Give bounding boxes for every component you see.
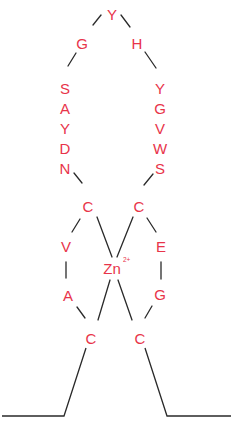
residue-right-1: Y [155, 80, 165, 97]
residue-cys-1: C [83, 198, 94, 215]
zn-coord-c4 [118, 280, 132, 320]
residue-cys-3: C [86, 330, 97, 347]
bond-c-e [147, 218, 156, 232]
bond-h-y [145, 52, 156, 68]
bond-g-c [145, 306, 152, 318]
bond-s-c [144, 174, 153, 185]
bond-a-c [77, 307, 85, 318]
residue-left-2: A [60, 100, 70, 117]
bond-g-s [68, 53, 76, 66]
residue-e: E [156, 238, 166, 255]
residue-y-top: Y [107, 6, 117, 23]
zn-coord-c2 [117, 217, 133, 257]
residue-right-5: S [155, 160, 165, 177]
zinc-finger-diagram: Y G H S A Y D N Y G V W S C C V E A G C … [0, 0, 233, 429]
residue-left-5: N [60, 160, 71, 177]
residue-g-top: G [76, 35, 88, 52]
residue-cys-4: C [135, 330, 146, 347]
diagram-canvas: Y G H S A Y D N Y G V W S C C V E A G C … [0, 0, 233, 429]
zn-coord-c3 [98, 280, 110, 320]
zinc-ion-charge: 2+ [123, 256, 131, 263]
residue-right-4: W [153, 140, 168, 157]
bond-y-h [121, 15, 130, 27]
zinc-ion: Zn 2+ [103, 256, 130, 277]
backbone-right [145, 348, 231, 416]
zn-coord-c1 [97, 217, 112, 257]
residue-left-4: D [60, 140, 71, 157]
residue-left-1: S [60, 80, 70, 97]
zinc-ion-label: Zn [103, 260, 121, 277]
residue-left-3: Y [60, 120, 70, 137]
residue-a: A [63, 287, 73, 304]
backbone-left [2, 348, 86, 416]
residue-g-low: G [154, 286, 166, 303]
residue-v: V [61, 238, 71, 255]
residue-right-2: G [154, 100, 166, 117]
residue-right-3: V [155, 120, 165, 137]
bond-c-v [72, 219, 80, 232]
residue-cys-2: C [134, 198, 145, 215]
bond-n-c [74, 173, 82, 183]
residue-h-top: H [132, 35, 143, 52]
bond-g-y [93, 15, 101, 25]
